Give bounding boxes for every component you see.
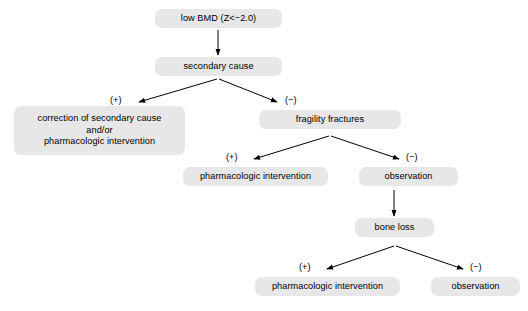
sign-plus-2: (+) [226,152,237,162]
node-label: observation [384,171,432,183]
node-label: pharmacologic intervention [200,171,311,183]
node-secondary-cause[interactable]: secondary cause [155,57,282,76]
sign-minus-2: (−) [406,152,417,162]
edge-fragility-to-observation-mid [331,136,399,159]
node-label: pharmacologic intervention [44,136,155,148]
node-observation-bottom[interactable]: observation [431,277,520,296]
node-label: observation [451,281,499,293]
edge-boneloss-to-observation-bottom [396,246,463,269]
sign-minus-3: (−) [470,262,481,272]
node-label: bone loss [375,222,415,234]
node-pharmacologic-intervention-mid[interactable]: pharmacologic intervention [183,167,328,186]
node-low-bmd[interactable]: low BMD (Z<−2.0) [155,9,282,28]
node-label: pharmacologic intervention [272,281,383,293]
node-bone-loss[interactable]: bone loss [355,218,434,237]
node-fragility-fractures[interactable]: fragility fractures [259,110,401,129]
sign-plus-3: (+) [299,262,310,272]
edge-boneloss-to-pharm-bottom [327,246,394,269]
node-label: low BMD (Z<−2.0) [181,13,256,25]
node-observation-mid[interactable]: observation [359,167,458,186]
node-label: and/or [86,125,112,137]
flowchart-edges [0,0,528,311]
node-label: secondary cause [183,61,253,73]
sign-plus-1: (+) [110,95,121,105]
edge-secondary-to-correction [139,79,217,102]
node-label: fragility fractures [296,114,364,126]
node-label: correction of secondary cause [37,113,161,125]
flowchart-canvas: low BMD (Z<−2.0)secondary causecorrectio… [0,0,528,311]
edge-secondary-to-fragility [219,79,277,102]
sign-minus-1: (−) [285,95,296,105]
edge-fragility-to-pharm-mid [254,136,329,159]
node-correction-secondary-cause[interactable]: correction of secondary causeand/orpharm… [14,106,185,155]
node-pharmacologic-intervention-bottom[interactable]: pharmacologic intervention [255,277,400,296]
